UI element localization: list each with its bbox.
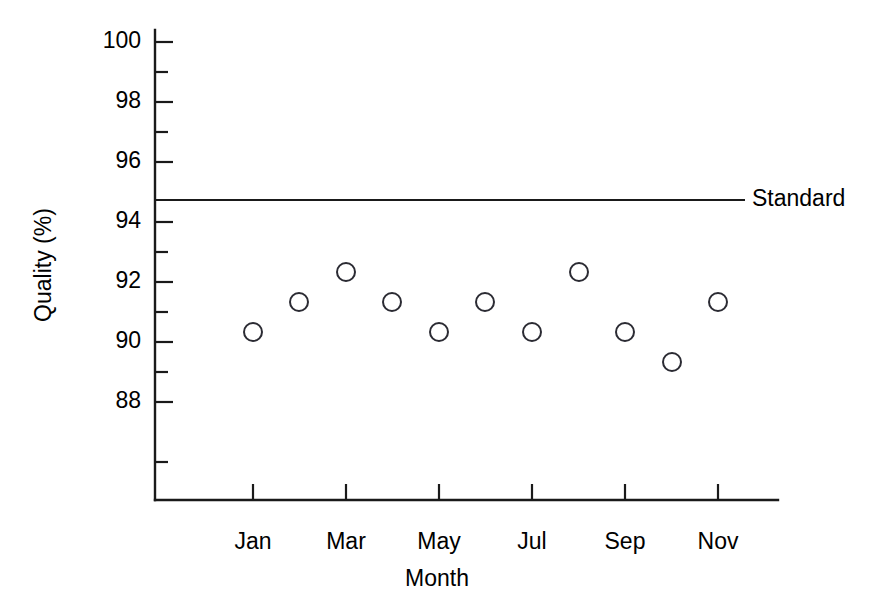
x-axis-label-mar: Mar [326,528,366,554]
y-axis-minor-ticks [155,72,168,462]
standard-label: Standard [752,185,845,211]
y-axis-label-92: 92 [115,267,141,293]
x-axis-ticks [253,484,718,500]
x-axis-label-may: May [417,528,461,554]
x-axis-label-jan: Jan [234,528,271,554]
data-point-may [430,323,448,341]
data-series-quality [244,263,727,371]
chart-page: 100 98 96 94 92 90 88 Jan Mar May Jul Se… [0,0,872,616]
data-point-oct [663,353,681,371]
y-axis-major-ticks [155,42,173,402]
x-axis-tick-labels: Jan Mar May Jul Sep Nov [234,528,738,554]
data-point-feb [290,293,308,311]
quality-control-scatter-chart: 100 98 96 94 92 90 88 Jan Mar May Jul Se… [0,0,872,616]
data-point-jan [244,323,262,341]
y-axis-label-96: 96 [115,147,141,173]
standard-reference-line-group: Standard [155,185,845,211]
data-point-apr [383,293,401,311]
data-point-sep [616,323,634,341]
x-axis-label-nov: Nov [698,528,739,554]
data-point-aug [570,263,588,281]
data-point-mar [337,263,355,281]
y-axis-label-100: 100 [103,27,141,53]
x-axis-label-jul: Jul [517,528,546,554]
y-axis-label-94: 94 [115,207,141,233]
axis-lines [155,30,778,500]
data-point-jul [523,323,541,341]
y-axis-label-90: 90 [115,327,141,353]
y-axis-title: Quality (%) [30,208,56,322]
x-axis-title: Month [405,565,469,591]
y-axis-label-98: 98 [115,87,141,113]
y-axis-label-88: 88 [115,387,141,413]
x-axis-label-sep: Sep [605,528,646,554]
data-point-nov [709,293,727,311]
data-point-jun [476,293,494,311]
y-axis-tick-labels: 100 98 96 94 92 90 88 [103,27,142,413]
